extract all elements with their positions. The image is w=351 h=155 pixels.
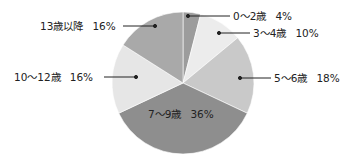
label-name: 7〜9歳 bbox=[148, 108, 181, 120]
label-13-plus: 13歳以降16% bbox=[40, 20, 116, 32]
label-percent: 4% bbox=[275, 10, 292, 22]
label-name: 10〜12歳 bbox=[14, 71, 61, 83]
label-0-2: 0〜2歳4% bbox=[233, 10, 292, 22]
label-percent: 16% bbox=[92, 20, 115, 32]
label-name: 13歳以降 bbox=[40, 20, 83, 32]
label-name: 0〜2歳 bbox=[233, 10, 266, 22]
label-percent: 10% bbox=[295, 27, 318, 39]
label-3-4: 3〜4歳10% bbox=[253, 27, 319, 39]
label-10-12: 10〜12歳16% bbox=[14, 71, 93, 83]
label-name: 5〜6歳 bbox=[274, 72, 307, 84]
label-7-9: 7〜9歳36% bbox=[148, 108, 214, 120]
label-percent: 18% bbox=[316, 72, 339, 84]
label-percent: 36% bbox=[190, 108, 213, 120]
label-percent: 16% bbox=[70, 71, 93, 83]
label-name: 3〜4歳 bbox=[253, 27, 286, 39]
label-5-6: 5〜6歳18% bbox=[274, 72, 340, 84]
